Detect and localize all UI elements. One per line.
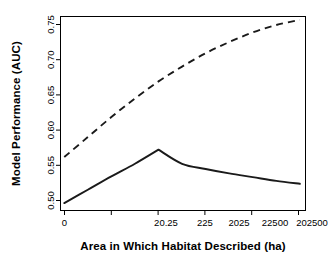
y-tick-label: 0.75 [45, 15, 56, 34]
y-tick-label: 0.50 [45, 191, 56, 210]
y-tick-label: 0.60 [45, 121, 56, 140]
chart-figure: 0.50 0.55 0.60 0.65 0.70 0.75 0 20.25 22… [0, 0, 330, 264]
x-tick-label: 0 [62, 217, 67, 228]
x-tick-label: 225 [197, 217, 213, 228]
x-axis-title: Area in Which Habitat Described (ha) [80, 240, 286, 252]
x-tick-label: 2025 [228, 217, 249, 228]
y-tick-label: 0.70 [45, 50, 56, 68]
y-tick-label: 0.65 [45, 86, 56, 105]
y-axis-title: Model Performance (AUC) [10, 41, 22, 186]
x-tick-label: 202500 [296, 217, 328, 228]
x-tick-label: 20.25 [154, 217, 178, 228]
x-tick-label: 22500 [262, 217, 288, 228]
y-tick-label: 0.55 [45, 156, 56, 175]
